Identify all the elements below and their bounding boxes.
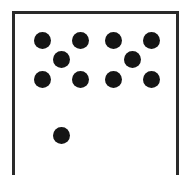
dot-upper-right-quincunx xyxy=(143,32,160,49)
dot-upper-left-quincunx xyxy=(72,32,89,49)
dot-upper-right-quincunx xyxy=(124,51,141,68)
dot-upper-right-quincunx xyxy=(105,32,122,49)
dot-upper-left-quincunx xyxy=(34,71,51,88)
dot-single xyxy=(53,127,70,144)
dot-upper-left-quincunx xyxy=(53,51,70,68)
dot-upper-left-quincunx xyxy=(72,71,89,88)
dot-upper-right-quincunx xyxy=(105,71,122,88)
dot-upper-left-quincunx xyxy=(34,32,51,49)
dot-upper-right-quincunx xyxy=(143,71,160,88)
